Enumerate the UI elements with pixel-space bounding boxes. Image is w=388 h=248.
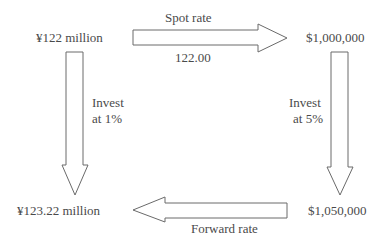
node-usd-1000000: $1,000,000 (306, 31, 365, 45)
invest-left-line1: Invest (92, 96, 124, 110)
invest-5pct-arrow (327, 52, 353, 195)
invest-right-line1: Invest (289, 96, 321, 110)
forward-rate-arrow (133, 197, 287, 222)
spot-rate-arrow (133, 24, 287, 52)
node-yen-122-million: ¥122 million (36, 31, 103, 45)
invest-right-line2: at 5% (293, 112, 323, 126)
node-yen-123-22-million: ¥123.22 million (17, 204, 100, 218)
node-usd-1050000: $1,050,000 (308, 204, 367, 218)
invest-1pct-arrow (62, 52, 88, 195)
spot-rate-value: 122.00 (175, 51, 211, 65)
spot-rate-label: Spot rate (165, 11, 212, 25)
forward-rate-label: Forward rate (191, 222, 258, 236)
invest-left-line2: at 1% (92, 112, 122, 126)
